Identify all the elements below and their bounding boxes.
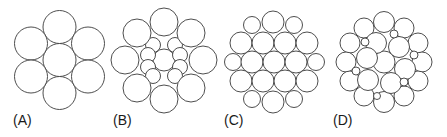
strand-circle: [358, 70, 379, 91]
strand-circle: [374, 12, 395, 33]
panel-a: [15, 11, 105, 110]
strand-circle: [225, 54, 242, 71]
strand-circle: [123, 19, 151, 47]
strand-circle: [296, 32, 318, 54]
strand-circle: [390, 30, 398, 38]
strand-circle: [400, 78, 408, 86]
strand-circle: [286, 91, 303, 108]
strand-circle: [72, 60, 105, 93]
strand-circle: [389, 37, 410, 58]
strand-circle: [361, 38, 369, 46]
strand-circle: [177, 19, 205, 47]
strand-circle: [189, 46, 217, 74]
strand-circle: [252, 70, 274, 92]
strand-circle: [374, 93, 381, 100]
strand-circle: [308, 54, 325, 71]
strand-circle: [285, 51, 307, 73]
strand-circle: [15, 60, 48, 93]
panel-b-label: (B): [113, 112, 132, 128]
panel-c-label: (C): [224, 112, 243, 128]
strand-circle: [150, 8, 178, 36]
strand-circle: [352, 67, 360, 75]
panel-d: [336, 12, 432, 113]
strand-circle: [340, 33, 360, 53]
panel-a-label: (A): [13, 112, 32, 128]
panel-d-label: (D): [333, 112, 352, 128]
strand-circle: [262, 11, 284, 33]
strand-circle: [72, 27, 105, 60]
strand-circle: [43, 44, 76, 77]
panel-b: [111, 8, 217, 113]
strand-circle: [410, 51, 418, 59]
strand-circle: [263, 51, 285, 73]
strand-circle: [241, 51, 263, 73]
strand-circle: [408, 33, 428, 53]
strand-circle: [150, 85, 178, 113]
strand-circle: [244, 17, 261, 34]
strand-circle: [274, 70, 296, 92]
strand-circle: [43, 11, 76, 44]
strand-circle: [230, 70, 252, 92]
strand-circle: [357, 48, 378, 69]
panel-c: [225, 11, 325, 113]
strand-circle: [230, 32, 252, 54]
strand-circle: [123, 74, 151, 102]
strand-circle: [43, 77, 76, 110]
strand-circle: [296, 70, 318, 92]
strand-circle: [381, 73, 402, 94]
strand-circle: [15, 27, 48, 60]
strand-circle: [252, 32, 274, 54]
strand-circle: [111, 46, 139, 74]
strand-circle: [274, 32, 296, 54]
strand-circle: [244, 91, 261, 108]
strand-circle: [153, 49, 175, 71]
strand-circle: [177, 74, 205, 102]
strand-circle: [262, 91, 284, 113]
strand-circle: [286, 17, 303, 34]
